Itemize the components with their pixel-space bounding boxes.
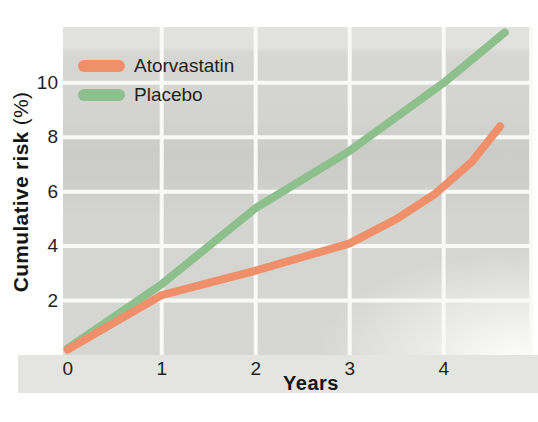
x-tick-label: 4 <box>438 358 449 380</box>
y-tick-label: 10 <box>0 72 58 94</box>
x-axis-title: Years <box>283 372 339 395</box>
legend-swatch-placebo <box>78 89 125 101</box>
plot-panel: Atorvastatin Placebo <box>63 27 533 355</box>
legend-label-atorvastatin: Atorvastatin <box>134 57 234 74</box>
x-tick-label: 0 <box>62 358 73 380</box>
x-tick-label: 2 <box>250 358 261 380</box>
legend-item-atorvastatin: Atorvastatin <box>78 57 234 74</box>
legend: Atorvastatin Placebo <box>78 57 234 115</box>
figure: Atorvastatin Placebo 246810 01234 Cumula… <box>0 0 538 422</box>
xaxis-band <box>18 355 538 393</box>
series-line-atorvastatin <box>68 126 500 349</box>
legend-label-placebo: Placebo <box>134 86 203 103</box>
y-axis-title-text: Cumulative risk <box>9 131 32 292</box>
y-axis-title-unit: (%) <box>9 92 32 126</box>
y-tick-label: 2 <box>0 290 58 312</box>
y-axis-title: Cumulative risk (%) <box>9 92 33 293</box>
legend-swatch-atorvastatin <box>78 60 125 72</box>
x-tick-label: 1 <box>156 358 167 380</box>
legend-item-placebo: Placebo <box>78 86 234 103</box>
x-tick-label: 3 <box>344 358 355 380</box>
